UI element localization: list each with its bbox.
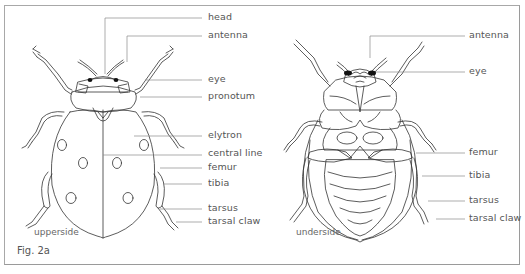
label-tibia: tibia (208, 178, 229, 188)
label-tarsus-underside: tarsus (469, 195, 499, 205)
view-label-upperside: upperside (34, 228, 79, 237)
label-tibia-underside: tibia (469, 170, 490, 180)
label-femur-underside: femur (469, 147, 498, 157)
upperside-beetle (22, 46, 184, 238)
label-eye: eye (208, 74, 226, 84)
label-antenna: antenna (208, 30, 248, 40)
label-pronotum: pronotum (208, 91, 255, 101)
figure-caption: Fig. 2a (17, 246, 50, 256)
label-central-line: central line (208, 148, 263, 158)
label-eye-underside: eye (469, 66, 487, 76)
label-tarsus: tarsus (208, 203, 238, 213)
label-femur: femur (208, 162, 237, 172)
underside-beetle (284, 40, 436, 242)
view-label-underside: underside (296, 228, 341, 237)
label-tarsal-claw-underside: tarsal claw (469, 213, 521, 223)
label-antenna-underside: antenna (469, 30, 509, 40)
label-head: head (208, 12, 232, 22)
leader-lines (103, 18, 465, 222)
label-tarsal-claw: tarsal claw (208, 216, 260, 226)
label-elytron: elytron (208, 130, 242, 140)
